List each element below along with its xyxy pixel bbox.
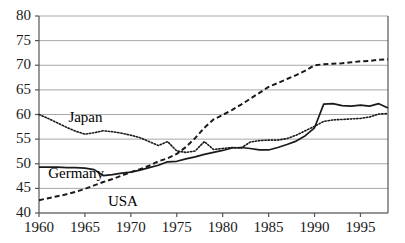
x-tick-label-1985: 1985	[247, 220, 291, 235]
series-label-japan: Japan	[68, 110, 102, 125]
series-label-germany: Germany	[48, 166, 104, 181]
y-tick-label-65: 65	[1, 82, 31, 97]
x-tick-label-1965: 1965	[63, 220, 107, 235]
x-tick-label-1980: 1980	[201, 220, 245, 235]
x-tick-label-1960: 1960	[17, 220, 61, 235]
x-tick-label-1970: 1970	[109, 220, 153, 235]
y-tick-label-55: 55	[1, 131, 31, 146]
y-tick-label-75: 75	[1, 33, 31, 48]
y-tick-label-80: 80	[1, 8, 31, 23]
x-tick-label-1995: 1995	[338, 220, 382, 235]
y-tick-label-45: 45	[1, 180, 31, 195]
y-tick-label-60: 60	[1, 107, 31, 122]
y-tick-label-50: 50	[1, 156, 31, 171]
y-tick-label-40: 40	[1, 205, 31, 220]
x-tick-label-1975: 1975	[155, 220, 199, 235]
y-tick-label-70: 70	[1, 57, 31, 72]
series-label-usa: USA	[108, 194, 138, 209]
chart-plot-area	[0, 0, 405, 243]
x-tick-label-1990: 1990	[293, 220, 337, 235]
line-chart: 404550556065707580 196019651970197519801…	[0, 0, 405, 243]
